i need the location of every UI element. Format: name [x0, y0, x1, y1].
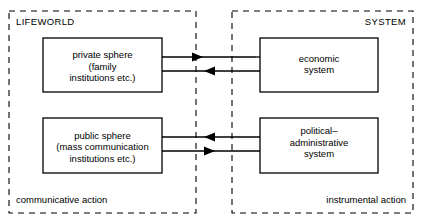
box-private-sphere-line-1: private sphere [72, 49, 132, 60]
connector-economic-to-private [162, 67, 260, 76]
box-political-administrative-system-line-1: political– [301, 125, 339, 136]
lifeworld-system-diagram: LIFEWORLD communicative action SYSTEM in… [0, 0, 422, 223]
connector-political-to-public-arrowhead [204, 133, 215, 142]
box-private-sphere-line-2: (family [89, 61, 117, 72]
box-political-administrative-system-line-2: administrative [290, 137, 349, 148]
connector-public-to-political [162, 147, 260, 156]
box-public-sphere-line-3: institutions etc.) [70, 153, 136, 164]
connector-economic-to-private-arrowhead [204, 67, 215, 76]
connector-political-to-public [162, 133, 260, 142]
panel-system-label: SYSTEM [365, 16, 406, 27]
connector-private-to-economic [162, 53, 260, 62]
diagram-canvas: LIFEWORLD communicative action SYSTEM in… [0, 0, 422, 223]
box-public-sphere-line-2: (mass communication [56, 141, 148, 152]
panel-lifeworld-label: LIFEWORLD [16, 16, 75, 27]
box-public-sphere-line-1: public sphere [74, 130, 131, 141]
panel-lifeworld-footer-label: communicative action [16, 194, 107, 205]
box-economic-system-line-1: economic [299, 53, 340, 64]
box-political-administrative-system-line-3: system [304, 148, 334, 159]
box-private-sphere-line-3: institutions etc.) [70, 72, 136, 83]
connector-public-to-political-arrowhead [204, 147, 215, 156]
connector-private-to-economic-arrowhead [192, 53, 203, 62]
panel-system-footer-label: instrumental action [326, 194, 406, 205]
box-economic-system-line-2: system [304, 64, 334, 75]
